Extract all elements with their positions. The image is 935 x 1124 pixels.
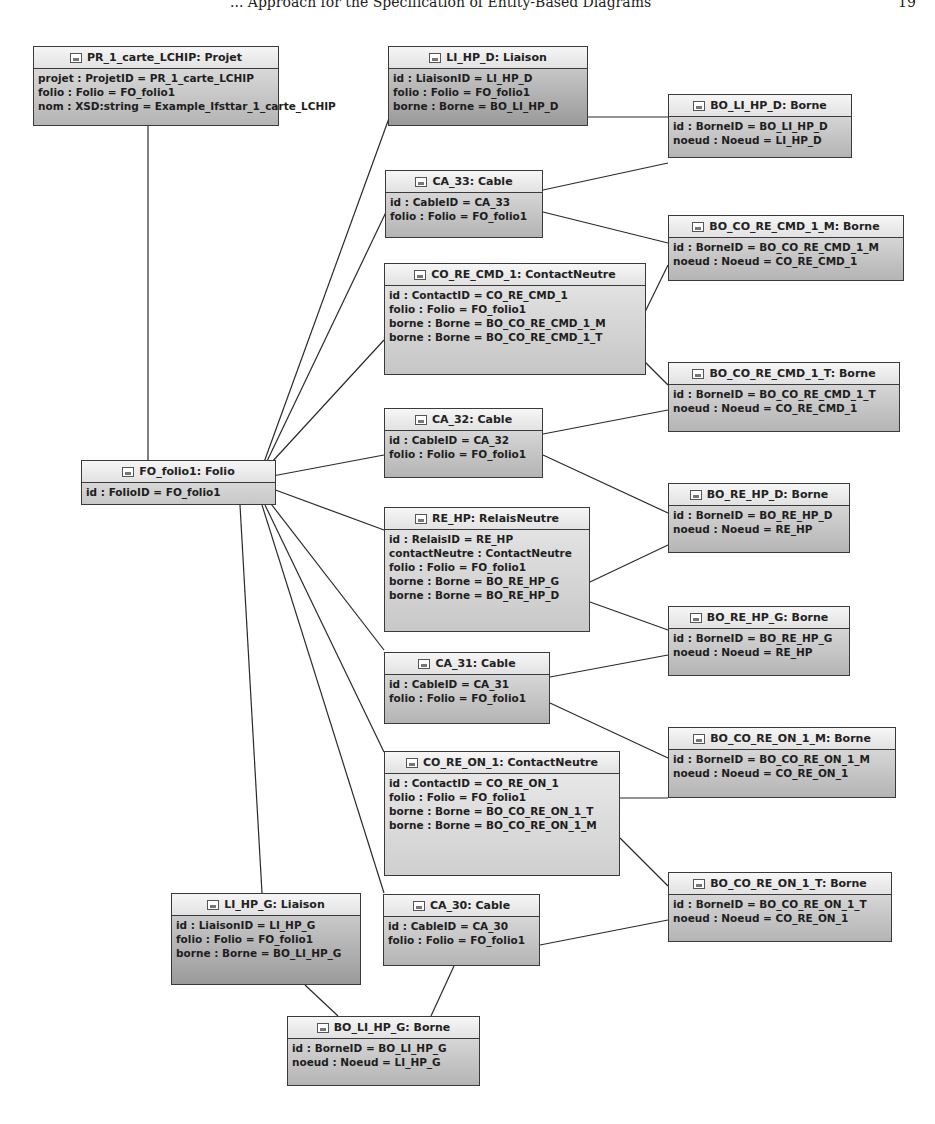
node-title: BO_CO_RE_ON_1_M: Borne xyxy=(710,732,871,745)
node-title: CO_RE_CMD_1: ContactNeutre xyxy=(431,268,616,281)
object-instance-icon xyxy=(418,659,430,669)
node-attribute: noeud : Noeud = LI_HP_G xyxy=(292,1055,475,1069)
node-attribute: borne : Borne = BO_CO_RE_ON_1_M xyxy=(389,818,615,832)
node-attribute: folio : Folio = FO_folio1 xyxy=(390,209,538,223)
node-bo-re-hp-g[interactable]: BO_RE_HP_G: Borne id : BorneID = BO_RE_H… xyxy=(668,606,850,676)
node-attribute: borne : Borne = BO_LI_HP_D xyxy=(393,99,583,113)
node-bo-li-hp-g[interactable]: BO_LI_HP_G: Borne id : BorneID = BO_LI_H… xyxy=(287,1016,480,1086)
object-instance-icon xyxy=(429,53,441,63)
object-instance-icon xyxy=(414,270,426,280)
node-projet[interactable]: PR_1_carte_LCHIP: Projet projet : Projet… xyxy=(33,46,279,126)
node-title: CO_RE_ON_1: ContactNeutre xyxy=(423,756,598,769)
node-attribute: folio : Folio = FO_folio1 xyxy=(38,85,274,99)
node-attribute: projet : ProjetID = PR_1_carte_LCHIP xyxy=(38,71,274,85)
node-title: PR_1_carte_LCHIP: Projet xyxy=(87,51,242,64)
node-attribute: id : ContactID = CO_RE_ON_1 xyxy=(389,776,615,790)
node-ca-31[interactable]: CA_31: Cable id : CableID = CA_31 folio … xyxy=(384,652,550,724)
node-attribute: id : CableID = CA_32 xyxy=(389,433,538,447)
node-attribute: id : CableID = CA_30 xyxy=(388,919,535,933)
node-title: CA_32: Cable xyxy=(432,413,512,426)
node-title: BO_CO_RE_ON_1_T: Borne xyxy=(710,877,867,890)
node-attribute: noeud : Noeud = CO_RE_ON_1 xyxy=(673,766,891,780)
object-instance-icon xyxy=(692,222,704,232)
node-ca-30[interactable]: CA_30: Cable id : CableID = CA_30 folio … xyxy=(383,894,540,966)
node-attribute: nom : XSD:string = Example_Ifsttar_1_car… xyxy=(38,99,274,113)
node-attribute: noeud : Noeud = RE_HP xyxy=(673,645,845,659)
object-instance-icon xyxy=(690,490,702,500)
node-re-hp[interactable]: RE_HP: RelaisNeutre id : RelaisID = RE_H… xyxy=(384,507,590,632)
node-attribute: contactNeutre : ContactNeutre xyxy=(389,546,585,560)
node-attribute: borne : Borne = BO_CO_RE_CMD_1_T xyxy=(389,330,641,344)
node-attribute: folio : Folio = FO_folio1 xyxy=(389,447,538,461)
node-attribute: id : CableID = CA_33 xyxy=(390,195,538,209)
node-attribute: folio : Folio = FO_folio1 xyxy=(388,933,535,947)
node-title: BO_LI_HP_G: Borne xyxy=(334,1021,451,1034)
node-attribute: id : LiaisonID = LI_HP_G xyxy=(176,918,356,932)
object-instance-icon xyxy=(692,369,704,379)
object-instance-icon xyxy=(317,1023,329,1033)
node-attribute: id : ContactID = CO_RE_CMD_1 xyxy=(389,288,641,302)
node-attribute: folio : Folio = FO_folio1 xyxy=(389,302,641,316)
object-instance-icon xyxy=(693,879,705,889)
node-bo-li-hp-d[interactable]: BO_LI_HP_D: Borne id : BorneID = BO_LI_H… xyxy=(668,94,852,158)
node-attribute: noeud : Noeud = CO_RE_CMD_1 xyxy=(673,401,895,415)
node-attribute: folio : Folio = FO_folio1 xyxy=(389,560,585,574)
node-attribute: folio : Folio = FO_folio1 xyxy=(389,691,545,705)
node-attribute: id : BorneID = BO_CO_RE_CMD_1_M xyxy=(673,240,899,254)
node-title: BO_CO_RE_CMD_1_M: Borne xyxy=(709,220,879,233)
node-attribute: noeud : Noeud = CO_RE_CMD_1 xyxy=(673,254,899,268)
node-title: FO_folio1: Folio xyxy=(139,465,234,478)
node-bo-co-re-on-1-t[interactable]: BO_CO_RE_ON_1_T: Borne id : BorneID = BO… xyxy=(668,872,892,942)
node-attribute: id : BorneID = BO_CO_RE_CMD_1_T xyxy=(673,387,895,401)
object-instance-icon xyxy=(406,758,418,768)
object-instance-icon xyxy=(122,467,134,477)
node-title: RE_HP: RelaisNeutre xyxy=(432,512,559,525)
node-fo-folio1[interactable]: FO_folio1: Folio id : FolioID = FO_folio… xyxy=(81,460,276,505)
node-title: BO_LI_HP_D: Borne xyxy=(710,99,827,112)
node-attribute: folio : Folio = FO_folio1 xyxy=(176,932,356,946)
node-attribute: noeud : Noeud = CO_RE_ON_1 xyxy=(673,911,887,925)
object-instance-icon xyxy=(415,514,427,524)
node-attribute: id : BorneID = BO_RE_HP_D xyxy=(673,508,845,522)
node-bo-co-re-cmd-1-m[interactable]: BO_CO_RE_CMD_1_M: Borne id : BorneID = B… xyxy=(668,215,904,281)
object-instance-icon xyxy=(693,734,705,744)
node-attribute: borne : Borne = BO_CO_RE_CMD_1_M xyxy=(389,316,641,330)
object-instance-icon xyxy=(690,613,702,623)
node-title: BO_RE_HP_G: Borne xyxy=(707,611,828,624)
node-attribute: noeud : Noeud = LI_HP_D xyxy=(673,133,847,147)
node-attribute: borne : Borne = BO_LI_HP_G xyxy=(176,946,356,960)
node-bo-re-hp-d[interactable]: BO_RE_HP_D: Borne id : BorneID = BO_RE_H… xyxy=(668,483,850,553)
node-bo-co-re-on-1-m[interactable]: BO_CO_RE_ON_1_M: Borne id : BorneID = BO… xyxy=(668,727,896,798)
object-instance-icon xyxy=(693,101,705,111)
node-attribute: folio : Folio = FO_folio1 xyxy=(389,790,615,804)
node-attribute: id : BorneID = BO_LI_HP_D xyxy=(673,119,847,133)
node-ca-33[interactable]: CA_33: Cable id : CableID = CA_33 folio … xyxy=(385,170,543,238)
node-attribute: borne : Borne = BO_RE_HP_G xyxy=(389,574,585,588)
node-attribute: id : BorneID = BO_CO_RE_ON_1_T xyxy=(673,897,887,911)
node-attribute: id : CableID = CA_31 xyxy=(389,677,545,691)
node-attribute: noeud : Noeud = RE_HP xyxy=(673,522,845,536)
node-title: CA_33: Cable xyxy=(432,175,512,188)
object-instance-icon xyxy=(70,53,82,63)
node-attribute: folio : Folio = FO_folio1 xyxy=(393,85,583,99)
node-attribute: borne : Borne = BO_CO_RE_ON_1_T xyxy=(389,804,615,818)
node-title: BO_RE_HP_D: Borne xyxy=(707,488,829,501)
node-title: BO_CO_RE_CMD_1_T: Borne xyxy=(709,367,875,380)
node-attribute: id : FolioID = FO_folio1 xyxy=(86,485,271,499)
node-co-re-cmd-1[interactable]: CO_RE_CMD_1: ContactNeutre id : ContactI… xyxy=(384,263,646,375)
node-title: CA_31: Cable xyxy=(435,657,515,670)
node-li-hp-g[interactable]: LI_HP_G: Liaison id : LiaisonID = LI_HP_… xyxy=(171,893,361,985)
node-title: LI_HP_D: Liaison xyxy=(446,51,547,64)
object-instance-icon xyxy=(207,900,219,910)
node-attribute: id : BorneID = BO_LI_HP_G xyxy=(292,1041,475,1055)
node-bo-co-re-cmd-1-t[interactable]: BO_CO_RE_CMD_1_T: Borne id : BorneID = B… xyxy=(668,362,900,432)
node-li-hp-d[interactable]: LI_HP_D: Liaison id : LiaisonID = LI_HP_… xyxy=(388,46,588,126)
object-instance-icon xyxy=(413,901,425,911)
node-attribute: id : BorneID = BO_CO_RE_ON_1_M xyxy=(673,752,891,766)
node-attribute: id : LiaisonID = LI_HP_D xyxy=(393,71,583,85)
node-attribute: id : RelaisID = RE_HP xyxy=(389,532,585,546)
node-attribute: borne : Borne = BO_RE_HP_D xyxy=(389,588,585,602)
object-instance-icon xyxy=(415,415,427,425)
node-ca-32[interactable]: CA_32: Cable id : CableID = CA_32 folio … xyxy=(384,408,543,478)
node-co-re-on-1[interactable]: CO_RE_ON_1: ContactNeutre id : ContactID… xyxy=(384,751,620,876)
